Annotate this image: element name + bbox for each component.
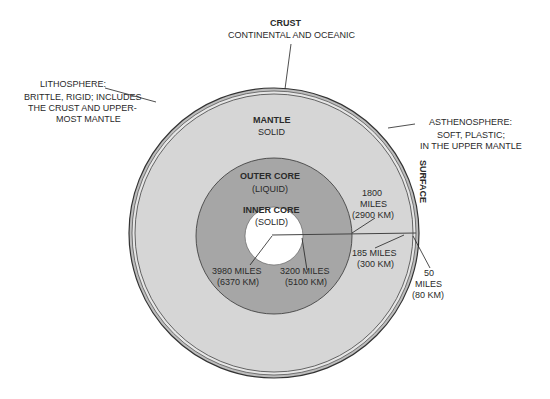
depth-185-line-1: 185 MILES [352,248,397,259]
lithosphere-line-3: MOST MANTLE [56,114,121,125]
crust-title: CRUST [270,18,301,29]
depth-50-line-1: 50 [424,268,434,279]
depth-50-line-3: (80 KM) [412,290,444,301]
depth-1800-line-3: (2900 KM) [352,210,394,221]
depth-3980-line-1: 3980 MILES [212,266,262,277]
depth-3980-line-2: (6370 KM) [217,277,259,288]
depth-3200-line-1: 3200 MILES [280,266,330,277]
asthenosphere-title: ASTHENOSPHERE: [429,117,512,128]
outer-core-desc: (LIQUID) [252,184,288,195]
depth-1800-line-1: 1800 [362,188,382,199]
lithosphere-line-2: THE CRUST AND UPPER- [28,103,137,114]
earth-diagram [0,0,550,399]
inner-core-desc: (SOLID) [255,217,288,228]
lithosphere-line-1: BRITTLE, RIGID; INCLUDES [24,92,142,103]
depth-1800-line-2: MILES [360,199,387,210]
depth-50-line-2: MILES [415,279,442,290]
asthenosphere-line-1: SOFT, PLASTIC; [437,130,505,141]
inner-core-title: INNER CORE [243,205,300,216]
depth-185-line-2: (300 KM) [357,259,394,270]
mantle-desc: SOLID [258,127,285,138]
lithosphere-title: LITHOSPHERE: [40,79,106,90]
surface-label: SURFACE [417,160,428,203]
crust-desc: CONTINENTAL AND OCEANIC [228,30,355,41]
asthenosphere-line-2: IN THE UPPER MANTLE [420,141,522,152]
depth-3200-line-2: (5100 KM) [285,277,327,288]
outer-core-title: OUTER CORE [240,171,300,182]
mantle-title: MANTLE [253,115,291,126]
